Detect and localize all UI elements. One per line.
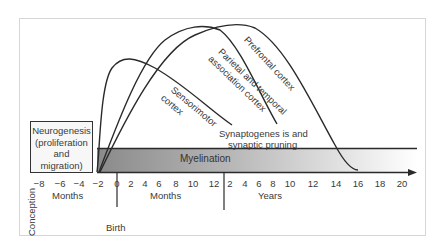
tick-month: 6 — [156, 178, 161, 189]
postnatal-months-label: Months — [150, 190, 181, 201]
tick-month: 12 — [209, 178, 220, 189]
tick-year: 8 — [270, 178, 275, 189]
tick-year: 10 — [285, 178, 296, 189]
tick-year: 18 — [375, 178, 386, 189]
synaptogenesis-label-line-1: Synaptogenes is and — [219, 128, 308, 139]
tick-prenatal: −4 — [74, 178, 85, 189]
synaptogenesis-label-line-2: synaptic pruning — [228, 139, 297, 150]
tick-prenatal: −2 — [93, 178, 104, 189]
tick-prenatal: −6 — [55, 178, 66, 189]
tick-year: 6 — [256, 178, 261, 189]
years-label: Years — [258, 190, 282, 201]
tick-year: 12 — [308, 178, 319, 189]
birth-label: Birth — [106, 222, 126, 233]
diagram-lines — [0, 0, 447, 250]
tick-month: 10 — [188, 178, 199, 189]
tick-month: 2 — [128, 178, 133, 189]
tick-year: 16 — [353, 178, 364, 189]
tick-month: 4 — [142, 178, 147, 189]
tick-year: 20 — [397, 178, 408, 189]
axis-arrow-icon — [408, 169, 417, 176]
conception-label: Conception — [26, 188, 37, 236]
tick-month: 8 — [173, 178, 178, 189]
tick-year: 14 — [331, 178, 342, 189]
tick-birth: 0 — [114, 178, 119, 189]
tick-year: 2 — [227, 178, 232, 189]
prenatal-months-label: Months — [52, 190, 83, 201]
tick-year: 4 — [242, 178, 247, 189]
